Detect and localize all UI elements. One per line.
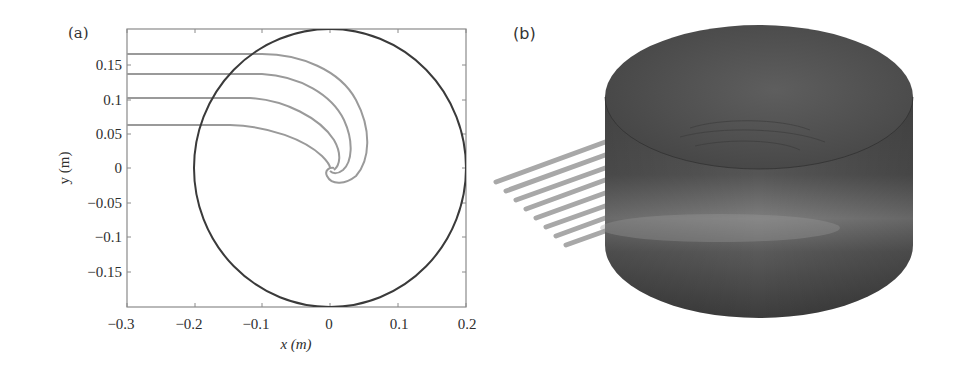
x-tick-label: −0.1 — [242, 316, 269, 332]
x-tick-label: 0.1 — [390, 316, 409, 332]
y-axis-label: y (m) — [56, 152, 73, 185]
y-tick-label: −0.1 — [95, 229, 122, 245]
ray-4 — [127, 125, 330, 168]
ray-trajectories — [127, 54, 367, 183]
y-tick-label: 0 — [115, 160, 123, 176]
panel-b-cylinder-render: (b) — [480, 0, 957, 387]
x-tick-label: 0.2 — [458, 316, 477, 332]
x-ticks — [127, 29, 466, 307]
ray-3 — [127, 98, 339, 170]
y-tick-labels: 0.15 0.1 0.05 0 −0.05 −0.1 −0.15 — [87, 57, 122, 280]
y-tick-label: 0.05 — [96, 126, 122, 142]
y-tick-label: −0.15 — [87, 264, 122, 280]
x-tick-label: −0.2 — [175, 316, 202, 332]
plot-frame — [127, 29, 466, 307]
cylinder-top — [605, 25, 913, 169]
y-ticks — [127, 65, 466, 272]
x-tick-labels: −0.3 −0.2 −0.1 0 0.1 0.2 — [107, 316, 476, 332]
ray-2 — [127, 74, 351, 173]
cylinder-svg — [480, 0, 957, 387]
illumination-band — [600, 214, 840, 242]
y-tick-label: 0.1 — [103, 92, 122, 108]
x-tick-label: −0.3 — [107, 316, 134, 332]
y-tick-label: 0.15 — [96, 57, 122, 73]
panel-a-trajectory-plot: (a) 0.15 0.1 0.05 0 — [0, 0, 480, 387]
x-tick-label: 0 — [325, 316, 333, 332]
plot-a-svg: 0.15 0.1 0.05 0 −0.05 −0.1 −0.15 −0.3 −0… — [0, 0, 480, 387]
x-axis-label: x (m) — [279, 336, 311, 353]
incident-rays — [496, 141, 608, 245]
y-tick-label: −0.05 — [87, 195, 122, 211]
